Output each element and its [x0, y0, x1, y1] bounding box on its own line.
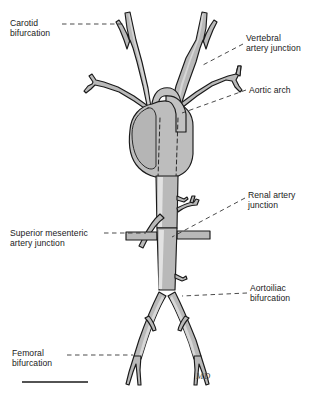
arterial-tree-figure: Carotid bifurcation Vertebral artery jun… [0, 0, 322, 395]
right-renal-artery [177, 231, 210, 239]
left-subclavian-artery [84, 74, 148, 110]
label-superior-mesenteric-artery-junction: Superior mesenteric artery junction [10, 228, 88, 249]
intercostal-branch-upper [177, 196, 188, 202]
label-renal-artery-junction: Renal artery junction [248, 190, 295, 211]
artery-tree-group [84, 12, 242, 385]
label-aortoiliac-bifurcation: Aortoiliac bifurcation [250, 283, 290, 304]
artist-signature: MD [196, 371, 211, 381]
label-femoral-bifurcation: Femoral bifurcation [12, 348, 52, 369]
inferior-mesenteric-branch [175, 274, 187, 281]
label-carotid-bifurcation: Carotid bifurcation [10, 18, 50, 39]
label-vertebral-artery-junction: Vertebral artery junction [246, 33, 301, 54]
left-femoral-bifurcation [126, 356, 141, 385]
leader-aortoiliac-bifurcation [182, 293, 247, 296]
label-aortic-arch: Aortic arch [249, 85, 291, 95]
leader-aortic-arch [182, 90, 246, 113]
leader-vertebral-artery-junction [201, 44, 243, 66]
left-carotid-artery [116, 12, 152, 118]
right-vertebral-branch [236, 66, 241, 76]
